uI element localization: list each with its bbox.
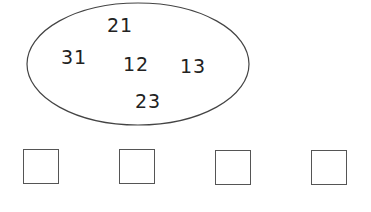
answer-box[interactable]	[119, 149, 155, 184]
set-number: 21	[107, 16, 133, 35]
set-number: 23	[135, 92, 161, 111]
set-number: 31	[61, 48, 87, 67]
answer-box[interactable]	[215, 150, 251, 185]
answer-box[interactable]	[23, 149, 59, 184]
set-number: 13	[180, 57, 206, 76]
answer-box[interactable]	[311, 150, 347, 185]
set-number: 12	[123, 55, 149, 74]
